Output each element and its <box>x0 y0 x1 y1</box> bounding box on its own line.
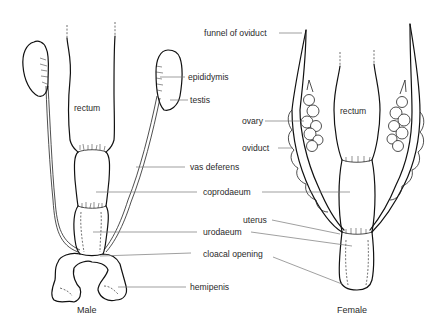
male-coprodaeum-outline <box>74 152 109 206</box>
label-urodaeum: urodaeum <box>203 228 242 237</box>
label-male-rectum: rectum <box>74 104 100 113</box>
left-ovary <box>301 80 323 152</box>
label-uterus: uterus <box>243 216 267 225</box>
female-anatomy <box>288 24 424 290</box>
label-hemipenis: hemipenis <box>190 283 229 292</box>
right-ovary <box>387 80 410 152</box>
caption-male: Male <box>77 306 97 315</box>
label-ovary: ovary <box>242 117 263 126</box>
male-rectum-outline <box>67 38 78 152</box>
right-testis-outline <box>156 50 182 110</box>
male-urodaeum-outline <box>74 206 108 254</box>
label-coprodaeum: coprodaeum <box>203 188 251 197</box>
label-funnel-of-oviduct: funnel of oviduct <box>204 29 267 38</box>
female-coprodaeum-outline <box>339 160 375 232</box>
label-testis: testis <box>190 96 210 105</box>
label-cloacal-opening: cloacal opening <box>203 250 263 259</box>
caption-female: Female <box>337 306 367 315</box>
male-anatomy <box>23 22 182 302</box>
label-oviduct: oviduct <box>242 144 269 153</box>
label-female-rectum: rectum <box>340 107 366 116</box>
cloaca-anatomy-diagram: rectum rectum funnel of oviduct epididym… <box>0 0 441 325</box>
left-testis-outline <box>23 41 49 96</box>
label-vas-deferens: vas deferens <box>190 163 239 172</box>
label-epididymis: epididymis <box>188 73 229 82</box>
hemipenis-outline <box>52 253 127 302</box>
